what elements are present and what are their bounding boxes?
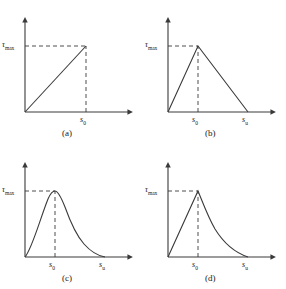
panel-caption-c: (c): [62, 274, 72, 283]
x-axis-label-s0: s0: [192, 116, 198, 126]
panel-d-plot: [143, 145, 286, 289]
x-axis-label-su: su: [242, 116, 248, 126]
panel-caption-d: (d): [205, 274, 216, 283]
figure-container: τmax s0 (a) τmax s0 su (b) τmax s0 su (c…: [0, 0, 286, 289]
panel-a: τmax s0 (a): [0, 0, 143, 144]
x-axis-label-s0: s0: [49, 261, 55, 271]
curve-c: [25, 191, 105, 257]
panel-b-plot: [143, 0, 286, 144]
y-axis-label: τmax: [145, 41, 157, 51]
x-axis-label-s0: s0: [192, 261, 198, 271]
curve-a: [25, 46, 86, 112]
x-axis-label-su: su: [99, 261, 105, 271]
y-axis-label: τmax: [2, 41, 14, 51]
panel-caption-a: (a): [62, 129, 72, 138]
panel-a-plot: [0, 0, 143, 144]
panel-d: τmax s0 su (d): [143, 145, 286, 289]
x-axis-label-su: su: [242, 261, 248, 271]
panel-c: τmax s0 su (c): [0, 145, 143, 289]
panel-b: τmax s0 su (b): [143, 0, 286, 144]
y-axis-label: τmax: [145, 186, 157, 196]
panel-c-plot: [0, 145, 143, 289]
curve-d: [168, 191, 248, 257]
curve-b: [168, 46, 248, 112]
panel-caption-b: (b): [205, 129, 216, 138]
y-axis-label: τmax: [2, 186, 14, 196]
x-axis-label-s0: s0: [80, 116, 86, 126]
